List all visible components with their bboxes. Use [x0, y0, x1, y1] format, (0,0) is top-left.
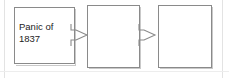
node-3-shadow-bottom — [160, 68, 213, 69]
page-frame-right-rule — [222, 0, 223, 78]
node-3-blank[interactable] — [158, 5, 212, 68]
node-2-blank[interactable] — [87, 5, 140, 68]
node-panic-of-1837[interactable]: Panic of 1837 — [14, 7, 75, 64]
right-arrow-icon — [136, 20, 158, 50]
flowchart-diagram: Panic of 1837 — [0, 0, 229, 78]
page-frame-left-rule — [4, 0, 5, 78]
node-panic-of-1837-shadow-bottom — [16, 65, 76, 66]
node-2-shadow-bottom — [89, 68, 141, 69]
node-panic-of-1837-label: Panic of 1837 — [19, 21, 71, 44]
node-3-shadow-right — [212, 7, 213, 69]
page-frame-bottom-rule — [0, 71, 229, 72]
